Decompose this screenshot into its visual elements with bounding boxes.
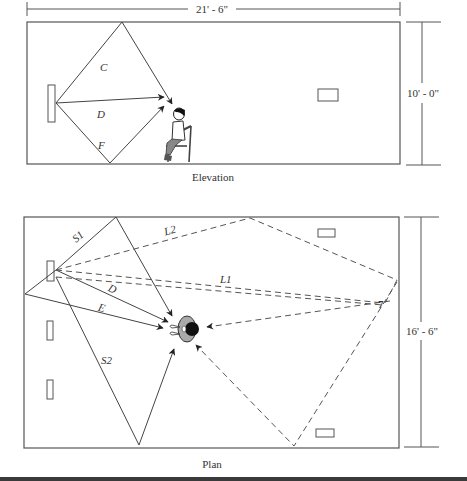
listener-top-view-icon [170,316,199,342]
direct-ray [56,97,164,103]
window-rect [318,229,335,237]
acoustic-diagram: 21' - 6" C D F [0,0,467,481]
height-dimension-label: 10' - 0" [407,87,439,99]
elevation-view: 21' - 6" C D F [27,2,441,183]
plan-view: S1 L2 L1 D E S2 7 16' - 6" Plan [24,217,439,470]
speaker-icon [48,85,55,122]
ray-label-s1: S1 [70,228,86,244]
speaker-icon [47,321,53,340]
side-ray-s2 [56,277,174,445]
early-ray-e [25,294,163,328]
window-rect [316,429,334,437]
ray-label-e: E [96,301,107,315]
width-dimension-label: 21' - 6" [196,3,228,15]
speaker-icon [47,380,53,399]
seated-listener-icon [164,108,191,162]
floor-ray [56,103,164,163]
ceiling-ray [56,22,172,104]
ray-label-f: F [97,139,105,151]
ray-label-d: D [96,108,105,120]
return-ray [207,301,390,327]
plan-caption: Plan [202,458,222,470]
elevation-room-outline [27,22,400,164]
ray-label-l2: L2 [162,223,178,238]
speaker-icon [47,261,54,281]
ray-label-c: C [100,61,108,73]
page-bottom-edge [0,477,467,481]
plan-height-dimension-label: 16' - 6" [406,325,438,337]
plan-room-outline [24,217,399,448]
corner-marker-label: 7 [378,298,384,310]
ray-label-s2: S2 [101,354,113,366]
ray-label-l1: L1 [219,273,232,285]
elevation-caption: Elevation [192,171,235,183]
window-rect [318,89,338,101]
wall-ray-segment [25,270,56,294]
direct-ray [56,270,168,322]
late-ray-floor [196,282,397,446]
